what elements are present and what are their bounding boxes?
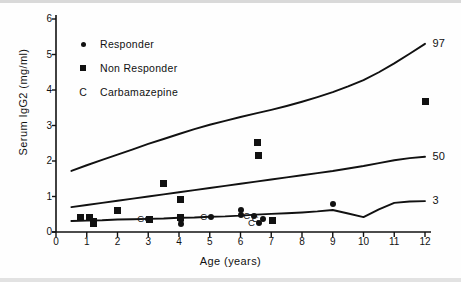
- data-point-non-responder: [146, 216, 153, 223]
- carbamazepine-tag: C: [137, 213, 144, 224]
- data-point-non-responder: [114, 207, 121, 214]
- percentile-curve-50: [71, 157, 425, 207]
- carbamazepine-tag: C: [248, 217, 255, 228]
- figure-root: Serum IgG2 (mg/ml) Age (years) 0123456 0…: [0, 0, 461, 282]
- data-point-non-responder: [90, 220, 97, 227]
- carbamazepine-tag: C: [200, 211, 207, 222]
- data-point-non-responder: [77, 214, 84, 221]
- data-point-non-responder: [269, 217, 276, 224]
- plot-canvas: [0, 0, 461, 282]
- data-point-non-responder: [177, 214, 184, 221]
- data-point-non-responder: [177, 196, 184, 203]
- data-point-non-responder: [422, 98, 429, 105]
- data-point-non-responder: [255, 152, 262, 159]
- data-point-non-responder: [254, 139, 261, 146]
- data-point-responder: [330, 201, 336, 207]
- percentile-curve-97: [71, 44, 425, 171]
- data-point-non-responder: [160, 180, 167, 187]
